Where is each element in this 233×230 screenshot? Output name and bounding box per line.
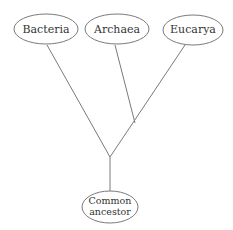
node-eucarya-label: Eucarya: [170, 23, 216, 36]
node-eucarya: Eucarya: [163, 15, 223, 45]
node-bacteria: Bacteria: [14, 14, 78, 44]
edge-archaea: [115, 45, 135, 123]
node-common-ancestor: Common ancestor: [82, 191, 138, 223]
edge-bacteria: [47, 45, 110, 157]
node-root-label-line2: ancestor: [89, 206, 131, 217]
edge-eucarya: [110, 45, 185, 157]
node-archaea-label: Archaea: [93, 23, 141, 36]
phylogenetic-tree-diagram: Bacteria Archaea Eucarya Common ancestor: [0, 0, 233, 230]
node-bacteria-label: Bacteria: [22, 23, 70, 36]
node-archaea: Archaea: [85, 14, 149, 44]
node-root-label-line1: Common: [89, 195, 132, 206]
